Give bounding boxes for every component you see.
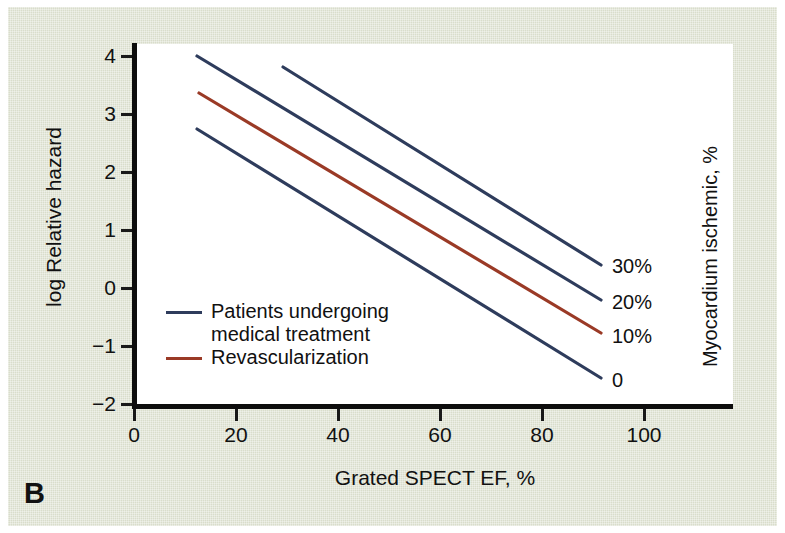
x-tick-label-60: 60: [410, 424, 470, 445]
legend-swatch-revascularization: [166, 357, 202, 360]
y-tick-label-0: 0: [76, 277, 116, 298]
x-tick-label-0: 0: [104, 424, 164, 445]
figure-panel-b: 4 3 2 1 0 −1 −2 0 20 40 60 80 100 log Re…: [0, 0, 785, 533]
legend: Patients undergoing medical treatment Re…: [166, 300, 456, 370]
y-axis-line: [132, 43, 137, 409]
y-tick-3: [121, 113, 132, 116]
y-tick-2: [121, 171, 132, 174]
x-tick-20: [235, 409, 238, 421]
y-tick-neg2: [121, 403, 132, 406]
legend-label-medical-treatment: Patients undergoing medical treatment: [211, 300, 389, 345]
legend-swatch-medical-treatment: [166, 311, 202, 314]
y-tick-0: [121, 287, 132, 290]
x-tick-80: [541, 409, 544, 421]
y-tick-label-neg1: −1: [76, 335, 116, 356]
y-tick-label-neg2: −2: [76, 393, 116, 414]
series-label-ischemia-0: 0: [612, 370, 623, 390]
y-axis-title: log Relative hazard: [42, 67, 66, 367]
series-label-ischemia-30: 30%: [612, 256, 652, 276]
y-tick-4: [121, 55, 132, 58]
x-tick-label-40: 40: [308, 424, 368, 445]
y-tick-1: [121, 229, 132, 232]
series-label-ischemia-10: 10%: [612, 326, 652, 346]
panel-label: B: [24, 479, 45, 508]
x-tick-label-80: 80: [512, 424, 572, 445]
right-axis-title: Myocardium ischemic, %: [699, 107, 722, 407]
y-tick-label-3: 3: [76, 103, 116, 124]
x-axis-title: Grated SPECT EF, %: [215, 466, 655, 490]
legend-item-revascularization: Revascularization: [166, 346, 456, 369]
y-tick-label-2: 2: [76, 161, 116, 182]
x-tick-0: [133, 409, 136, 421]
y-tick-neg1: [121, 345, 132, 348]
series-label-ischemia-20: 20%: [612, 292, 652, 312]
x-tick-label-20: 20: [206, 424, 266, 445]
x-tick-100: [643, 409, 646, 421]
x-tick-60: [439, 409, 442, 421]
y-tick-label-1: 1: [76, 219, 116, 240]
y-tick-label-4: 4: [76, 45, 116, 66]
legend-label-revascularization: Revascularization: [211, 346, 369, 369]
x-tick-label-100: 100: [614, 424, 674, 445]
x-tick-40: [337, 409, 340, 421]
legend-item-medical-treatment: Patients undergoing medical treatment: [166, 300, 456, 345]
